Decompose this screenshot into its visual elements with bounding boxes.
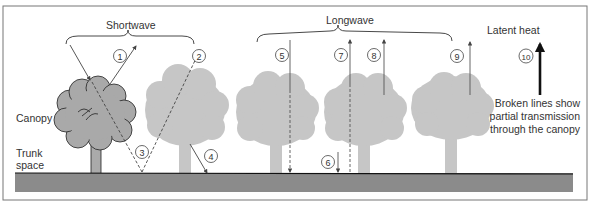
svg-text:Broken lines show: Broken lines show: [495, 97, 581, 109]
canopy-label: Canopy: [16, 112, 53, 124]
marker-4: 4: [205, 150, 218, 163]
tree-5: [411, 72, 494, 174]
energy-balance-diagram: Shortwave Longwave Latent heat Canopy Tr…: [0, 0, 592, 207]
svg-text:7: 7: [338, 51, 343, 61]
longwave-brace: [257, 25, 452, 42]
legend-note: Broken lines show partial transmission t…: [490, 97, 581, 135]
marker-1: 1: [114, 50, 127, 63]
marker-7: 7: [335, 49, 348, 62]
svg-text:partial transmission: partial transmission: [490, 110, 581, 122]
tree-3: [236, 71, 319, 174]
svg-text:9: 9: [454, 52, 459, 62]
svg-text:8: 8: [371, 51, 376, 61]
svg-text:3: 3: [139, 148, 144, 158]
shortwave-label: Shortwave: [106, 19, 156, 31]
svg-text:1: 1: [117, 52, 122, 62]
shortwave-brace: [66, 30, 194, 44]
marker-3: 3: [136, 146, 149, 159]
svg-text:10: 10: [522, 53, 531, 62]
svg-text:through the canopy: through the canopy: [490, 123, 581, 135]
latent-heat-label: Latent heat: [487, 24, 540, 36]
svg-text:5: 5: [279, 51, 284, 61]
svg-text:4: 4: [208, 152, 213, 162]
marker-10: 10: [519, 49, 533, 63]
marker-8: 8: [368, 49, 381, 62]
marker-5: 5: [276, 49, 289, 62]
svg-text:2: 2: [196, 52, 201, 62]
space-label: space: [16, 159, 44, 171]
longwave-label: Longwave: [326, 14, 374, 26]
tree-1: [54, 76, 136, 174]
marker-9: 9: [451, 50, 464, 63]
trunk-label: Trunk: [16, 147, 43, 159]
ground: [15, 173, 573, 192]
svg-text:6: 6: [325, 158, 330, 168]
marker-6: 6: [322, 156, 335, 169]
marker-2: 2: [193, 50, 206, 63]
tree-4: [324, 73, 407, 174]
